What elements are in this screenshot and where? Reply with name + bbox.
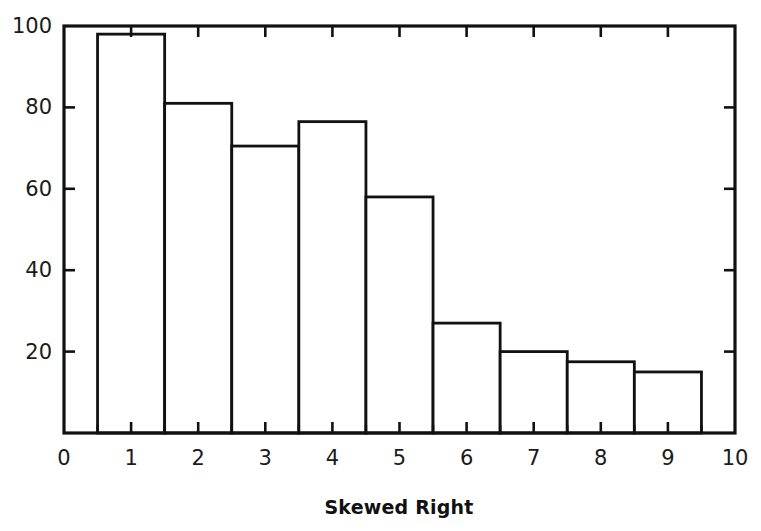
x-tick-label: 2 [192,446,205,470]
bar [366,197,433,433]
x-tick-label: 4 [326,446,339,470]
chart-figure: 012345678910 20406080100 Skewed Right [0,0,761,531]
x-tick-label: 8 [594,446,607,470]
x-tick-label: 1 [124,446,137,470]
x-tick-label: 3 [259,446,272,470]
skewed-right-histogram: 012345678910 20406080100 Skewed Right [0,0,761,531]
chart-title: Skewed Right [324,496,473,518]
x-tick-label: 10 [722,446,749,470]
bar [433,323,500,433]
y-tick-label: 100 [12,14,52,38]
x-tick-label: 9 [661,446,674,470]
y-tick-label: 20 [25,340,52,364]
y-tick-label: 40 [25,258,52,282]
bar [98,34,165,433]
bar [232,146,299,433]
y-tick-label: 80 [25,95,52,119]
x-tick-label: 6 [460,446,473,470]
bar [299,122,366,433]
x-tick-label: 7 [527,446,540,470]
y-tick-label: 60 [25,177,52,201]
x-tick-label: 5 [393,446,406,470]
bar [165,103,232,433]
bar [500,352,567,433]
x-tick-label: 0 [57,446,70,470]
